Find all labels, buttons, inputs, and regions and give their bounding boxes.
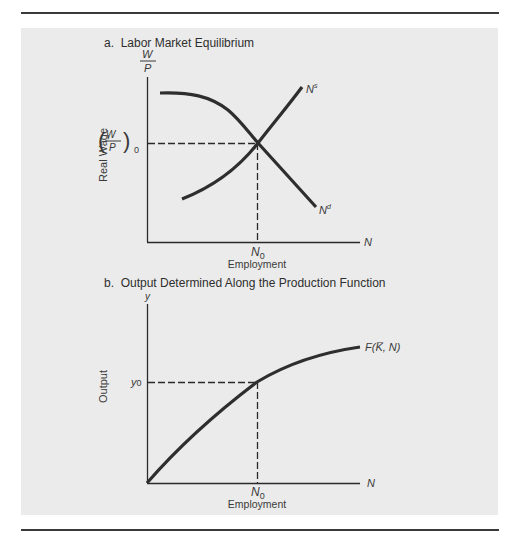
panel-a-chart: W P N Real Wage ( ) W P 0 Ns Nd N0 Emplo…: [97, 48, 372, 270]
labor-demand-label: Nd: [319, 203, 332, 216]
panel-a-y-top-numerator: W: [142, 48, 154, 60]
chart-canvas: W P N Real Wage ( ) W P 0 Ns Nd N0 Emplo…: [0, 0, 521, 538]
panel-a-x-label: Employment: [228, 258, 286, 270]
panel-a-x-axis-end-label: N: [364, 236, 372, 248]
panel-a-y-top-denominator: P: [144, 62, 152, 74]
production-function-label: F(K̅, N): [365, 341, 401, 353]
panel-a-y-tick-left-paren: (: [98, 128, 106, 153]
panel-b-chart: y N Output y0 F(K̅, N) N0 Employment: [97, 291, 401, 510]
panel-b-x-axis-end-label: N: [367, 477, 375, 489]
panel-a-y-tick-subscript: 0: [134, 145, 139, 155]
panel-b-x-label: Employment: [228, 498, 286, 510]
panel-a-y-tick-right-paren: ): [123, 128, 130, 153]
labor-supply-label: Ns: [306, 82, 318, 95]
production-function-curve: [147, 347, 360, 483]
panel-b-y-axis-top-label: y: [144, 291, 151, 302]
panel-a-y-tick-numerator: W: [106, 129, 117, 140]
panel-b-y-label: Output: [97, 370, 109, 403]
panel-b-y-tick: y0: [130, 376, 142, 388]
labor-demand-curve: [160, 93, 316, 207]
panel-a-y-tick-denominator: P: [109, 142, 116, 153]
